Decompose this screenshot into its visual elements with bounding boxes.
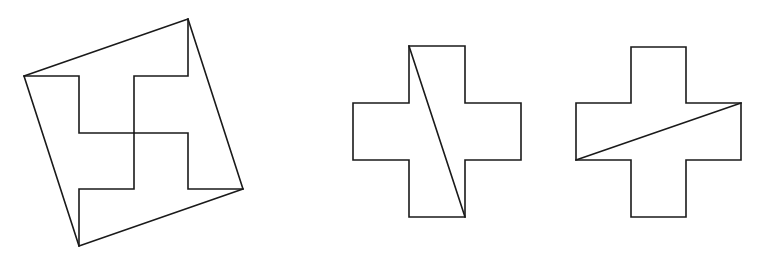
inner-cut-right: [134, 133, 243, 189]
diagram-canvas: [0, 0, 761, 262]
cross-diagonal: [409, 46, 465, 217]
figure-cross-shallow-diagonal: [576, 47, 741, 217]
cross-diagonal: [576, 103, 741, 160]
figure-square-dissection: [24, 19, 243, 246]
figure-cross-steep-diagonal: [353, 46, 521, 217]
